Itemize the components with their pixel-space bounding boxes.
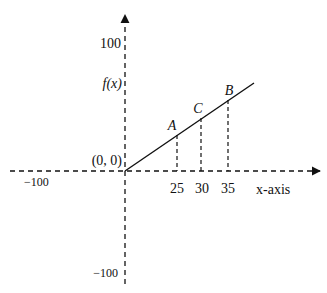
function-line: [125, 83, 254, 171]
point-a-label: A: [167, 118, 177, 133]
point-c-label: C: [193, 101, 203, 116]
x-tick-25: 25: [170, 181, 184, 196]
x-axis-label: x-axis: [256, 182, 290, 197]
origin-label: (0, 0): [92, 153, 123, 169]
point-b-label: B: [225, 83, 234, 98]
y-top-label: 100: [100, 36, 121, 51]
function-label: f(x): [103, 76, 123, 92]
y-bottom-label: −100: [93, 266, 118, 280]
x-tick-35: 35: [221, 181, 235, 196]
linear-function-diagram: 100 f(x) (0, 0) −100 −100 25 30 35 x-axi…: [0, 0, 327, 293]
x-tick-30: 30: [195, 181, 209, 196]
x-left-label: −100: [24, 175, 49, 189]
